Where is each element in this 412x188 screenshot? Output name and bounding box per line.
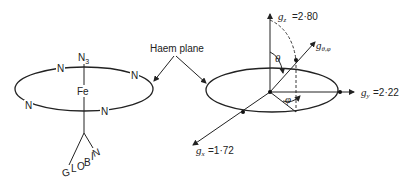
gz-value: =2·80 xyxy=(292,11,318,22)
callout-arrow-right xyxy=(176,56,206,83)
ring-n-bottom-right: N xyxy=(101,106,108,117)
g-theta-phi-vector xyxy=(270,42,315,92)
ring-n-top-right: N xyxy=(131,70,138,81)
callout-arrow-left xyxy=(154,56,174,81)
theta-symbol: θ xyxy=(275,52,281,64)
svg-text:B: B xyxy=(84,157,91,168)
azide-label: N3 xyxy=(78,52,89,65)
svg-text:G: G xyxy=(61,166,72,179)
gx-value: =1·72 xyxy=(208,145,234,156)
gz-label: gz xyxy=(278,10,287,24)
globin-label: G L O B I N xyxy=(61,146,102,179)
globin-bond-right xyxy=(84,133,93,148)
gx-axis xyxy=(193,92,270,145)
haem-g-tensor-diagram: N3 Fe N N N N G L O B I N Haem plane xyxy=(0,0,412,188)
gy-label: gy xyxy=(361,86,371,100)
gx-label: gx xyxy=(196,144,206,158)
fe-atom-label: Fe xyxy=(77,86,89,97)
ring-n-bottom-left: N xyxy=(25,100,32,111)
g-theta-phi-label: gθ,φ xyxy=(316,39,331,53)
phi-symbol: φ xyxy=(285,93,291,105)
g-tensor-diagram xyxy=(193,14,354,145)
ring-n-top-left: N xyxy=(57,63,64,74)
haem-plane-label: Haem plane xyxy=(150,43,204,54)
gy-value: =2·22 xyxy=(373,87,399,98)
